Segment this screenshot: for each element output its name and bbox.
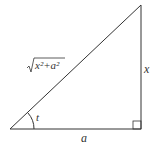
adjacent-label: a	[81, 131, 87, 145]
opposite-label: x	[143, 62, 150, 76]
hypotenuse-label: x²+a²	[34, 59, 60, 71]
angle-arc	[28, 113, 34, 129]
angle-label: t	[36, 111, 40, 123]
triangle-diagram: x²+a² x a t	[0, 0, 159, 153]
right-angle-marker	[133, 121, 141, 129]
